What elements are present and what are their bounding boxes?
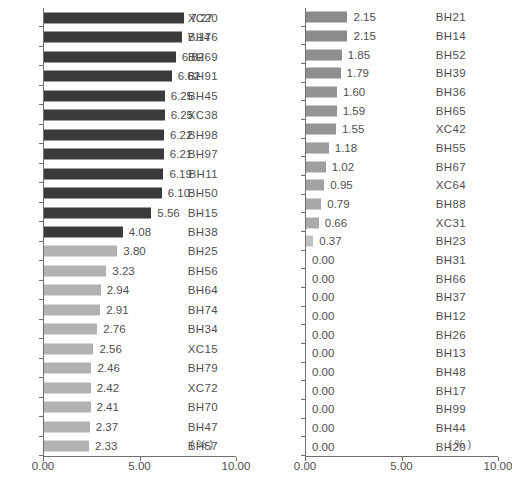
bar xyxy=(306,124,336,135)
bar-value-label: 2.42 xyxy=(97,382,119,394)
chart-row: BH986.22 xyxy=(0,125,258,144)
chart-row: BH170.00 xyxy=(258,381,510,400)
bar xyxy=(44,285,101,296)
chart-row: BH130.00 xyxy=(258,344,510,363)
bar-value-label: 2.46 xyxy=(97,362,119,374)
chart-row: BH440.00 xyxy=(258,419,510,438)
bar xyxy=(44,246,117,257)
bar-value-label: 0.00 xyxy=(312,291,334,303)
bar xyxy=(44,343,93,354)
bar-value-label: 1.85 xyxy=(348,49,370,61)
bar-value-label: 1.18 xyxy=(335,142,357,154)
chart-row: BH472.37 xyxy=(0,417,258,436)
chart-row: BH880.79 xyxy=(258,195,510,214)
chart-row: XC207.27 xyxy=(0,8,258,27)
chart-row: BH480.00 xyxy=(258,363,510,382)
category-label: BH38 xyxy=(188,226,218,238)
bar-value-label: 2.37 xyxy=(96,421,118,433)
bar-value-label: 6.25 xyxy=(171,109,193,121)
chart-row: BH916.62 xyxy=(0,66,258,85)
bar xyxy=(44,71,172,82)
chart-row: BH342.76 xyxy=(0,320,258,339)
bar xyxy=(306,198,321,209)
x-axis-tick-label: 0.00 xyxy=(32,460,54,472)
bar-value-label: 0.79 xyxy=(327,198,349,210)
bar xyxy=(306,86,337,97)
bar-value-label: 2.91 xyxy=(106,304,128,316)
chart-row: BH551.18 xyxy=(258,139,510,158)
bar-value-label: 0.00 xyxy=(312,329,334,341)
bar-value-label: 1.79 xyxy=(347,67,369,79)
bar xyxy=(44,12,184,23)
bar-value-label: 0.00 xyxy=(312,310,334,322)
bar xyxy=(44,421,90,432)
bar-value-label: 2.76 xyxy=(103,323,125,335)
bar-value-label: 0.00 xyxy=(312,366,334,378)
category-label: BH88 xyxy=(436,198,466,210)
category-label: BH21 xyxy=(436,11,466,23)
bar xyxy=(306,217,319,228)
bar xyxy=(44,110,165,121)
bar-value-label: 6.25 xyxy=(171,90,193,102)
bar xyxy=(306,49,342,60)
bar xyxy=(44,304,100,315)
bar xyxy=(44,265,106,276)
bar xyxy=(44,51,176,62)
category-label: BH15 xyxy=(188,207,218,219)
chart-row: BH767.14 xyxy=(0,27,258,46)
bar xyxy=(44,363,91,374)
bar-value-label: 4.08 xyxy=(129,226,151,238)
x-axis-tick-label: 10.00 xyxy=(222,460,251,472)
bar xyxy=(44,129,164,140)
bar xyxy=(44,207,151,218)
chart-row: XC640.95 xyxy=(258,176,510,195)
chart-row: BH521.85 xyxy=(258,45,510,64)
category-label: BH12 xyxy=(436,310,466,322)
bar-value-label: 2.15 xyxy=(353,11,375,23)
category-label: BH34 xyxy=(188,323,218,335)
chart-row: BH120.00 xyxy=(258,307,510,326)
bar-value-label: 1.02 xyxy=(332,161,354,173)
bar xyxy=(44,382,91,393)
category-label: BH14 xyxy=(436,30,466,42)
bar-value-label: 6.10 xyxy=(168,187,190,199)
chart-row: BH200.00 xyxy=(258,437,510,456)
x-axis-tick-label: 0.00 xyxy=(294,460,316,472)
category-label: XC15 xyxy=(188,343,218,355)
category-label: BH17 xyxy=(436,385,466,397)
bar-value-label: 2.41 xyxy=(97,401,119,413)
bar-value-label: 3.80 xyxy=(123,245,145,257)
chart-row: BH253.80 xyxy=(0,242,258,261)
category-label: XC31 xyxy=(436,217,466,229)
category-label: BH99 xyxy=(436,403,466,415)
bar-value-label: 3.23 xyxy=(112,265,134,277)
bar xyxy=(306,105,337,116)
bar-value-label: 7.14 xyxy=(188,31,210,43)
bar-value-label: 0.37 xyxy=(319,235,341,247)
category-label: BH55 xyxy=(436,142,466,154)
chart-row: BH116.19 xyxy=(0,164,258,183)
bar xyxy=(44,32,182,43)
bar-value-label: 6.19 xyxy=(169,168,191,180)
bar xyxy=(44,149,164,160)
bar-value-label: 0.95 xyxy=(330,179,352,191)
bar-value-label: 2.94 xyxy=(107,284,129,296)
bar-value-label: 2.15 xyxy=(353,30,375,42)
chart-row: XC152.56 xyxy=(0,339,258,358)
chart-row: BH702.41 xyxy=(0,398,258,417)
chart-row: BH651.59 xyxy=(258,101,510,120)
category-label: BH66 xyxy=(436,273,466,285)
x-axis-tick-label: 10.00 xyxy=(484,460,512,472)
bar xyxy=(306,12,347,23)
category-label: BH79 xyxy=(188,362,218,374)
bar-value-label: 6.82 xyxy=(182,51,204,63)
bar xyxy=(44,188,162,199)
chart-row: BH260.00 xyxy=(258,325,510,344)
chart-row: BH696.82 xyxy=(0,47,258,66)
chart-row: XC722.42 xyxy=(0,378,258,397)
chart-row: XC310.66 xyxy=(258,213,510,232)
category-label: BH20 xyxy=(436,441,466,453)
category-label: BH44 xyxy=(436,422,466,434)
chart-row: BH572.33 xyxy=(0,437,258,456)
